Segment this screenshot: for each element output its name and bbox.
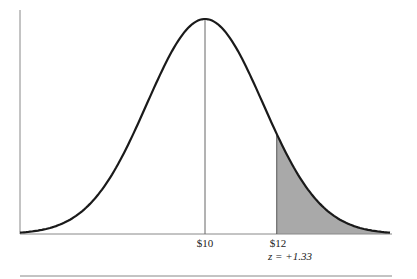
z-score-label: z = +1.33: [268, 250, 312, 262]
cutoff-label: $12: [270, 237, 287, 249]
shaded-tail-area: [277, 134, 390, 234]
mean-label: $10: [197, 237, 214, 249]
